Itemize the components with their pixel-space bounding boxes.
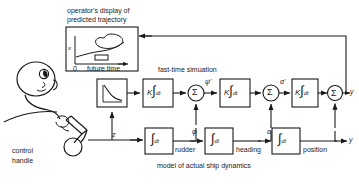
int-rudder-dt: dt [155, 138, 160, 144]
gain-int-3-label: K∫dt [295, 84, 309, 97]
signal-alpha-label: α [267, 128, 271, 135]
int-position-dt: dt [282, 138, 287, 144]
signal-alpha-prime-label: α' [280, 78, 285, 85]
control-handle-label-line2: handle [12, 157, 33, 164]
ship-model-caption: model of actual ship dynamics [157, 162, 251, 169]
int-heading-label: ∫dt [211, 132, 219, 145]
gain-int-2-label: K∫dt [224, 84, 238, 97]
control-handle-label-line1: control [12, 147, 33, 154]
signal-phi-label: φ [192, 128, 197, 135]
int-heading-dt: dt [215, 138, 220, 144]
gain-2-dt: dt [233, 90, 238, 96]
display-origin-label: 0 [73, 65, 77, 72]
sum-2-symbol: Σ [267, 88, 273, 97]
display-caption-line1: operator's display of [67, 7, 129, 16]
signal-heading-label: heading [236, 146, 261, 153]
diagram-canvas: operator's display of predicted trajecto… [0, 0, 359, 187]
signal-z-label: z [112, 131, 116, 138]
int-rudder-label: ∫dt [151, 132, 159, 145]
signal-y-output-bottom: y [349, 136, 353, 143]
signal-position-label: position [303, 146, 327, 153]
decay-block-frame [97, 79, 127, 107]
display-x-axis-label: future time [87, 65, 120, 72]
int-position-label: ∫dt [278, 132, 286, 145]
gain-3-dt: dt [304, 90, 309, 96]
signal-psi-prime-label: ψ' [205, 78, 211, 85]
gain-1-dt: dt [156, 90, 161, 96]
signal-y-output-top: y [350, 88, 354, 95]
sum-1-symbol: Σ [192, 88, 198, 97]
sum-3-symbol: Σ [331, 89, 337, 98]
gain-int-1-label: K∫dt [147, 84, 161, 97]
fast-time-caption: fast-time simuation [158, 66, 217, 73]
display-y-axis-label: x [68, 45, 71, 51]
signal-rudder-label: rudder [175, 146, 195, 153]
display-caption-line2: predicted trajectory [67, 16, 127, 25]
